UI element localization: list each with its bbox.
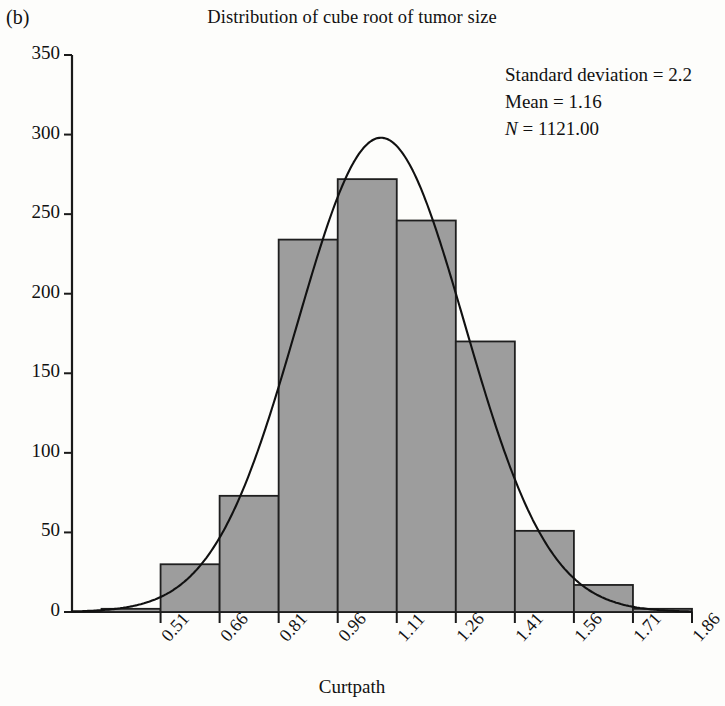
histogram-bar — [338, 179, 397, 612]
y-tick-label: 50 — [14, 519, 60, 541]
histogram-bar — [279, 240, 338, 612]
histogram-bar — [397, 221, 456, 612]
histogram-bar — [161, 564, 220, 612]
histogram-bar — [456, 341, 515, 612]
y-tick-label: 200 — [14, 281, 60, 303]
histogram-bar — [220, 496, 279, 612]
y-tick-label: 300 — [14, 122, 60, 144]
y-tick-label: 150 — [14, 360, 60, 382]
x-axis-title: Curtpath — [0, 676, 704, 698]
y-tick-label: 250 — [14, 201, 60, 223]
histogram-bar — [515, 531, 574, 612]
y-tick-label: 100 — [14, 440, 60, 462]
y-tick-label: 0 — [14, 599, 60, 621]
y-tick-label: 350 — [14, 42, 60, 64]
